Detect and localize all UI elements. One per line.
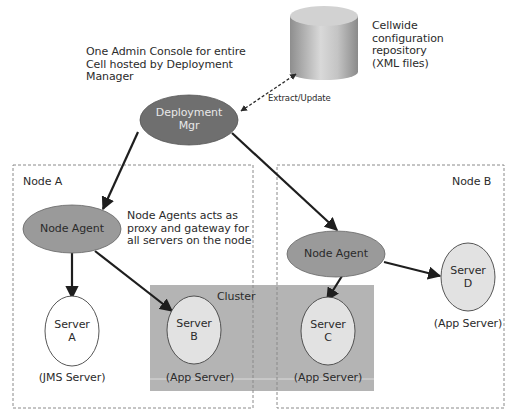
server-a-role: (JMS Server) [22, 372, 122, 385]
node-a-title: Node A [23, 176, 62, 189]
server-b-role: (App Server) [150, 372, 250, 385]
server-b-label: Server B [167, 318, 221, 343]
cluster-label: Cluster [217, 291, 255, 304]
extract-update-label: Extract/Update [268, 93, 331, 103]
node-agent-b-label: Node Agent [287, 248, 385, 261]
admin-console-note: One Admin Console for entire Cell hosted… [86, 46, 246, 84]
arrow-dmgr-to-node-agent-a [103, 132, 138, 209]
node-b-title: Node B [452, 176, 491, 189]
arrow-agent-a-to-server-b [95, 251, 172, 311]
server-d-label: Server D [441, 265, 495, 290]
repository-cylinder-icon [290, 6, 358, 80]
server-a-label: Server A [45, 319, 99, 344]
server-c-label: Server C [301, 319, 355, 344]
server-d-role: (App Server) [418, 318, 515, 331]
server-c-role: (App Server) [278, 372, 378, 385]
node-agent-note: Node Agents acts as proxy and gateway fo… [127, 210, 251, 248]
repository-note: Cellwide configuration repository (XML f… [372, 20, 444, 70]
deployment-mgr-label: Deployment Mgr [140, 107, 238, 132]
node-agent-a-label: Node Agent [23, 223, 121, 236]
arrow-agent-b-to-server-d [384, 262, 440, 276]
